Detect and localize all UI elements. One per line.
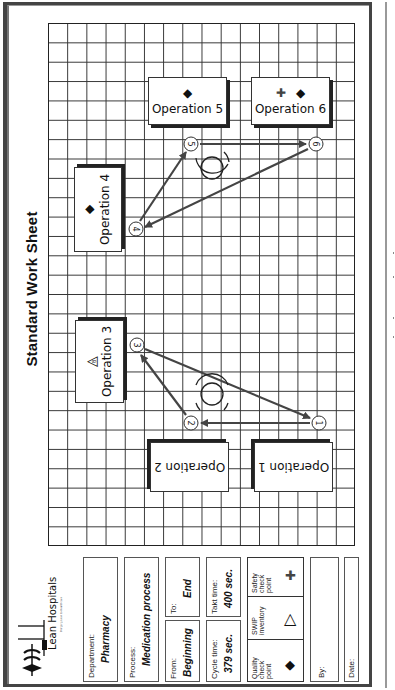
margin-tick bbox=[393, 317, 394, 319]
operation-6-box: ✚ ◆ Operation 6 bbox=[251, 77, 330, 125]
date-field[interactable]: Date: bbox=[344, 557, 359, 682]
legend-block: Safety check point ✚ SWIP inventory △ Qu… bbox=[247, 557, 304, 682]
margin-tick bbox=[393, 336, 394, 338]
safety-cross-icon: ✚ bbox=[285, 568, 296, 583]
logo-text: Lean Hospitals bbox=[47, 577, 58, 650]
process-value: Medication process bbox=[141, 573, 152, 666]
legend-quality-label: Quality check point bbox=[250, 642, 280, 680]
cycle-time-field: Cycle time: 379 sec. bbox=[206, 620, 241, 682]
cycle-time-label: Cycle time: bbox=[210, 639, 219, 679]
department-label: Department: bbox=[87, 634, 96, 678]
operation-label: Operation 2 bbox=[154, 460, 225, 474]
operation-1-box: Operation 1 bbox=[254, 442, 333, 492]
takt-time-value: 400 sec. bbox=[223, 569, 234, 608]
from-label: From: bbox=[169, 658, 178, 679]
margin-tick bbox=[393, 276, 394, 278]
by-label: By: bbox=[317, 666, 326, 678]
operation-label: Operation 3 bbox=[100, 326, 114, 397]
quality-diamond-icon: ◆ bbox=[84, 205, 96, 214]
takt-time-field: Takt time: 400 sec. bbox=[206, 557, 241, 617]
operation-3-box: △ 8 Operation 3 bbox=[75, 320, 124, 403]
quality-diamond-icon: ◆ bbox=[285, 657, 295, 672]
quality-diamond-icon: ◆ bbox=[183, 87, 192, 99]
operation-label: Operation 6 bbox=[255, 102, 326, 116]
operation-label: Operation 1 bbox=[258, 460, 329, 474]
operation-5-box: ◆ Operation 5 bbox=[148, 77, 227, 125]
process-label: Process: bbox=[128, 647, 137, 678]
process-field: Process: Medication process bbox=[124, 557, 159, 682]
swip-triangle-icon: △ bbox=[284, 609, 296, 628]
to-label: To: bbox=[169, 603, 178, 614]
department-field: Department: Pharmacy bbox=[83, 557, 118, 682]
worksheet-title: Standard Work Sheet bbox=[23, 211, 40, 366]
operation-2-box: Operation 2 bbox=[150, 442, 229, 492]
takt-time-label: Takt time: bbox=[210, 580, 219, 614]
by-field[interactable]: By: bbox=[310, 557, 339, 682]
date-label: Date: bbox=[347, 659, 356, 678]
operation-label: Operation 4 bbox=[99, 174, 113, 245]
right-margin-rule bbox=[385, 2, 387, 688]
operation-label: Operation 5 bbox=[152, 102, 223, 116]
margin-tick bbox=[393, 252, 394, 254]
safety-cross-icon: ✚ bbox=[276, 87, 286, 99]
to-field: To: End bbox=[165, 557, 200, 617]
to-value: End bbox=[182, 579, 193, 598]
department-value: Pharmacy bbox=[100, 615, 111, 663]
swip-count: 8 bbox=[88, 360, 100, 363]
svg-text:Bringing Lean to Healthcare: Bringing Lean to Healthcare bbox=[60, 597, 63, 632]
quality-diamond-icon: ◆ bbox=[296, 87, 305, 99]
operation-4-box: ◆ Operation 4 bbox=[74, 167, 122, 252]
legend-swip-label: SWIP inventory bbox=[250, 599, 280, 637]
cycle-time-value: 379 sec. bbox=[223, 634, 234, 673]
lean-hospitals-logo: Lean Hospitals Bringing Lean to Healthca… bbox=[14, 560, 84, 680]
from-field: From: Beginning bbox=[165, 620, 200, 682]
from-value: Beginning bbox=[182, 628, 193, 677]
legend-safety-label: Safety check point bbox=[250, 560, 280, 594]
